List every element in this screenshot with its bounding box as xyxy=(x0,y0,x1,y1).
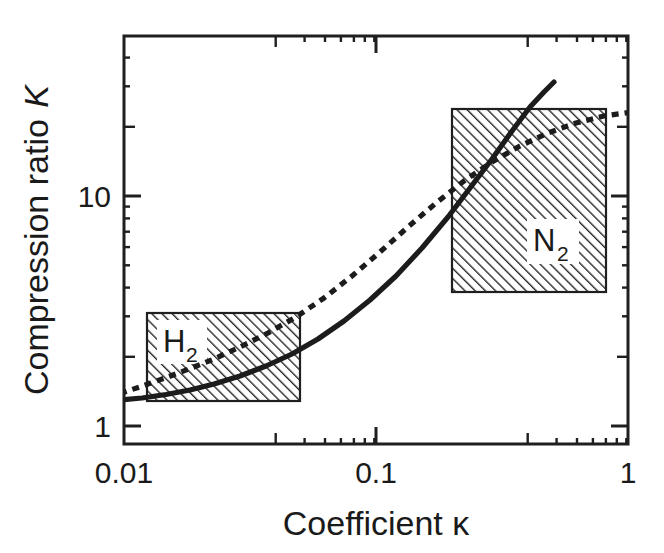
region-h2-label: H xyxy=(163,324,185,359)
x-axis-title-text: Coefficient κ xyxy=(283,504,470,542)
y-axis-title-text: Compression ratio xyxy=(17,110,55,395)
x-tick-label-1: 1 xyxy=(620,456,637,489)
region-n2: N 2 xyxy=(452,109,606,292)
svg-text:Compression ratio K: Compression ratio K xyxy=(17,84,55,395)
x-tick-label-01: 0.1 xyxy=(355,456,397,489)
y-tick-label-1: 1 xyxy=(94,410,111,443)
region-n2-label: N xyxy=(533,223,555,258)
y-axis-title: Compression ratio K xyxy=(17,84,55,395)
y-tick-label-10: 10 xyxy=(78,180,111,213)
region-h2-sublabel: 2 xyxy=(186,343,198,366)
region-n2-box xyxy=(452,109,606,292)
compression-ratio-chart: H 2 N 2 xyxy=(0,0,664,553)
figure-root: H 2 N 2 xyxy=(0,0,664,553)
y-axis-title-symbol: K xyxy=(17,84,55,108)
x-tick-label-001: 0.01 xyxy=(95,456,153,489)
x-axis-title: Coefficient κ xyxy=(283,504,470,542)
region-n2-sublabel: 2 xyxy=(557,242,569,265)
